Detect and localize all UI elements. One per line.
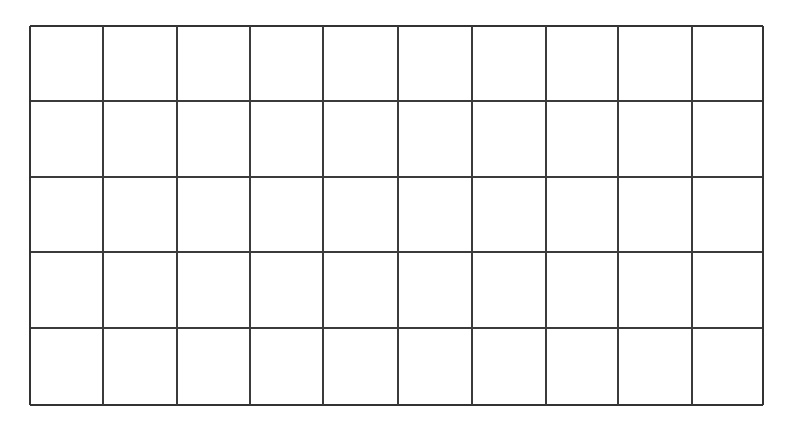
grid-cell[interactable]: [250, 177, 323, 252]
grid-cell[interactable]: [177, 252, 250, 328]
grid-cell[interactable]: [103, 328, 177, 405]
grid-cell[interactable]: [250, 26, 323, 101]
grid-cell[interactable]: [692, 252, 763, 328]
grid-cell[interactable]: [103, 252, 177, 328]
grid-cell[interactable]: [323, 26, 398, 101]
grid-cell[interactable]: [546, 26, 618, 101]
grid-cell[interactable]: [30, 26, 103, 101]
grid-cell[interactable]: [30, 177, 103, 252]
grid-cell[interactable]: [323, 101, 398, 177]
grid-cell[interactable]: [618, 328, 692, 405]
grid-cell[interactable]: [546, 177, 618, 252]
grid-cell[interactable]: [103, 177, 177, 252]
grid-cell[interactable]: [30, 328, 103, 405]
grid-cell[interactable]: [692, 177, 763, 252]
page-canvas: [0, 0, 785, 421]
grid-cell[interactable]: [618, 252, 692, 328]
grid-cell[interactable]: [472, 26, 546, 101]
grid-cell[interactable]: [618, 26, 692, 101]
grid-cell[interactable]: [546, 328, 618, 405]
grid-cell[interactable]: [398, 252, 472, 328]
grid-cell[interactable]: [103, 26, 177, 101]
grid-cell[interactable]: [398, 26, 472, 101]
grid-cell[interactable]: [177, 26, 250, 101]
grid-cell[interactable]: [323, 328, 398, 405]
grid-cell[interactable]: [30, 252, 103, 328]
grid-cell[interactable]: [618, 101, 692, 177]
grid-cell[interactable]: [177, 177, 250, 252]
grid-cell[interactable]: [472, 177, 546, 252]
grid-cell[interactable]: [177, 101, 250, 177]
grid-cell[interactable]: [323, 177, 398, 252]
grid-cell[interactable]: [177, 328, 250, 405]
grid-cell[interactable]: [323, 252, 398, 328]
grid-cell[interactable]: [250, 101, 323, 177]
grid-cell[interactable]: [250, 328, 323, 405]
blank-grid-table: [0, 0, 785, 421]
grid-cell[interactable]: [30, 101, 103, 177]
grid-cell[interactable]: [618, 177, 692, 252]
grid-cell[interactable]: [250, 252, 323, 328]
grid-cell[interactable]: [546, 101, 618, 177]
grid-cell[interactable]: [398, 177, 472, 252]
grid-cell-layer: [30, 26, 763, 405]
grid-cell[interactable]: [398, 328, 472, 405]
grid-cell[interactable]: [103, 101, 177, 177]
grid-cell[interactable]: [472, 101, 546, 177]
grid-cell[interactable]: [472, 328, 546, 405]
grid-cell[interactable]: [692, 26, 763, 101]
grid-cell[interactable]: [546, 252, 618, 328]
grid-cell[interactable]: [472, 252, 546, 328]
grid-cell[interactable]: [398, 101, 472, 177]
grid-cell[interactable]: [692, 101, 763, 177]
grid-cell[interactable]: [692, 328, 763, 405]
